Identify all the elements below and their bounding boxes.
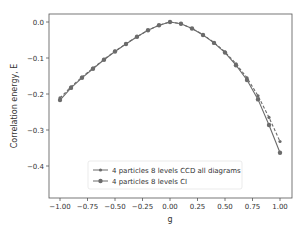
data-point [113, 49, 117, 53]
data-point [80, 76, 84, 80]
data-point [278, 140, 281, 143]
x-tick-label: 1.00 [272, 203, 288, 211]
legend-label-ccd: 4 particles 8 levels CCD all diagrams [112, 167, 241, 175]
legend-item-ccd: 4 particles 8 levels CCD all diagrams [93, 167, 241, 175]
data-point [135, 35, 139, 39]
legend-label-ci: 4 particles 8 levels CI [112, 178, 187, 186]
y-tick-label: −0.2 [27, 91, 44, 99]
x-tick-label: 0.50 [217, 203, 233, 211]
x-tick-label: −0.25 [132, 203, 153, 211]
x-tick-label: 0.00 [162, 203, 178, 211]
data-point [245, 78, 249, 82]
x-tick-label: 0.25 [190, 203, 206, 211]
y-tick-label: −0.4 [27, 163, 45, 171]
data-point [190, 26, 194, 30]
y-tick-label: −0.3 [27, 127, 44, 135]
data-point [69, 86, 73, 90]
data-point [201, 33, 205, 37]
x-axis: −1.00−0.75−0.50−0.250.000.250.500.751.00 [49, 198, 288, 211]
y-tick-label: −0.1 [27, 55, 44, 63]
data-point [157, 23, 161, 27]
data-point [168, 20, 172, 24]
legend-marker-ci [98, 179, 102, 183]
data-point [223, 50, 227, 54]
x-tick-label: −0.75 [77, 203, 98, 211]
x-tick-label: −1.00 [49, 203, 70, 211]
y-tick-label: 0.0 [33, 19, 44, 27]
y-axis-label: Correlation energy, E [10, 64, 19, 149]
x-tick-label: 0.75 [245, 203, 261, 211]
data-point [179, 22, 183, 26]
y-axis: 0.0−0.1−0.2−0.3−0.4 [27, 19, 49, 171]
data-point [102, 58, 106, 62]
chart: −1.00−0.75−0.50−0.250.000.250.500.751.00… [0, 0, 306, 235]
data-point [146, 28, 150, 32]
legend-marker-ccd [99, 168, 102, 171]
data-point [278, 150, 282, 154]
data-point [256, 97, 260, 101]
data-point [234, 63, 238, 67]
data-point [91, 67, 95, 71]
x-tick-label: −0.50 [104, 203, 125, 211]
legend: 4 particles 8 levels CCD all diagrams 4 … [88, 161, 242, 189]
data-point [267, 116, 270, 119]
data-point [212, 41, 216, 45]
data-point [124, 42, 128, 46]
x-axis-label: g [167, 215, 172, 224]
data-point [267, 123, 271, 127]
data-point [58, 98, 62, 102]
